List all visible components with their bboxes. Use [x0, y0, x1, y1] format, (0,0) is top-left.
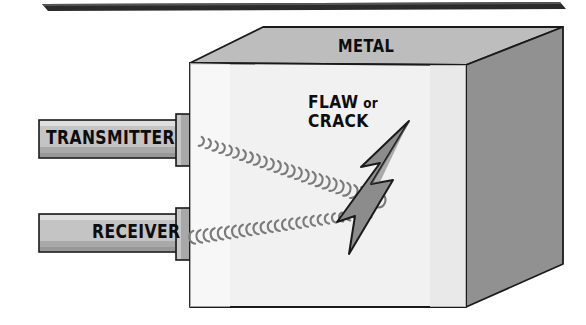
- transmitter-connector-block: [176, 114, 190, 166]
- ultrasonic-flaw-detection-diagram: TRANSMITTER RECEIVER METAL FLAW or CRACK: [0, 0, 586, 325]
- flaw-word: FLAW: [308, 91, 359, 112]
- receiver-label: RECEIVER: [92, 222, 180, 241]
- scan-edge-artifact: [42, 2, 566, 11]
- flaw-or-word: or: [363, 95, 378, 111]
- flaw-label-line1: FLAW or: [308, 93, 378, 111]
- diagram-canvas: [0, 0, 586, 325]
- flaw-label-line2: CRACK: [308, 112, 369, 130]
- transmitter-label: TRANSMITTER: [46, 128, 175, 147]
- metal-label: METAL: [338, 38, 394, 55]
